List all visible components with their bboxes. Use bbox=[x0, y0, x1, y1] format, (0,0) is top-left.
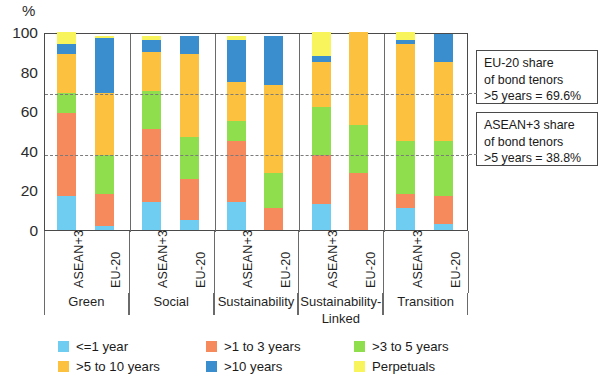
x-axis-region-label: ASEAN+3 bbox=[241, 230, 255, 288]
bar-segment bbox=[57, 32, 76, 44]
bar-segment bbox=[434, 141, 453, 196]
bar-segment bbox=[95, 38, 114, 93]
reference-line-connector bbox=[469, 154, 477, 155]
group-separator bbox=[384, 34, 385, 232]
group-separator bbox=[215, 34, 216, 232]
x-axis-divider bbox=[468, 231, 469, 293]
x-axis-region-label: ASEAN+3 bbox=[326, 230, 340, 288]
bar-segment bbox=[312, 56, 331, 62]
bar-segment bbox=[264, 85, 283, 172]
bar-segment bbox=[227, 40, 246, 82]
bar-segment bbox=[349, 32, 368, 125]
bar-segment bbox=[396, 32, 415, 40]
legend-item[interactable]: >5 to 10 years bbox=[58, 359, 160, 374]
bar-segment bbox=[180, 54, 199, 137]
bar-segment bbox=[227, 121, 246, 141]
bar-segment bbox=[95, 155, 114, 195]
bar-segment bbox=[180, 137, 199, 179]
legend-label: >10 years bbox=[224, 359, 282, 374]
bar-segment bbox=[142, 91, 161, 129]
group-separator bbox=[130, 34, 131, 232]
x-axis-region-label: EU-20 bbox=[449, 252, 463, 288]
y-axis-tick-label: 20 bbox=[0, 182, 38, 200]
bar-segment bbox=[396, 40, 415, 44]
bar-segment bbox=[142, 129, 161, 202]
bar-segment bbox=[264, 173, 283, 209]
x-axis-divider bbox=[44, 231, 45, 293]
bar-segment bbox=[312, 62, 331, 108]
bar-segment bbox=[227, 202, 246, 230]
bar-segment bbox=[95, 194, 114, 226]
y-axis-tick-label: 100 bbox=[0, 24, 38, 42]
bar-segment bbox=[434, 34, 453, 62]
legend-item[interactable]: >3 to 5 years bbox=[354, 339, 449, 354]
bar-segment bbox=[142, 40, 161, 52]
bar-segment bbox=[180, 179, 199, 221]
group-label: Sustainability bbox=[214, 294, 299, 309]
chart-figure: % 020406080100 ASEAN+3EU-20ASEAN+3EU-20A… bbox=[0, 0, 601, 380]
x-axis-region-label: EU-20 bbox=[364, 252, 378, 288]
legend-swatch-icon bbox=[58, 361, 69, 372]
legend-swatch-icon bbox=[206, 341, 217, 352]
legend-swatch-icon bbox=[354, 361, 365, 372]
y-axis-tick-label: 40 bbox=[0, 143, 38, 161]
bar-segment bbox=[227, 36, 246, 40]
bar-segment bbox=[312, 32, 331, 56]
bar-segment bbox=[142, 36, 161, 40]
legend-item[interactable]: <=1 year bbox=[58, 339, 128, 354]
group-label: Social bbox=[129, 294, 214, 309]
y-axis-unit-label: % bbox=[22, 2, 35, 19]
bar-segment bbox=[434, 196, 453, 224]
group-label: Sustainability- bbox=[298, 294, 383, 309]
bar-segment bbox=[434, 62, 453, 141]
x-axis: ASEAN+3EU-20ASEAN+3EU-20ASEAN+3EU-20ASEA… bbox=[0, 231, 601, 331]
x-axis-region-label: EU-20 bbox=[279, 252, 293, 288]
x-axis-region-label: EU-20 bbox=[194, 252, 208, 288]
bar-segment bbox=[349, 173, 368, 230]
plot-area bbox=[44, 33, 468, 231]
bar-segment bbox=[396, 44, 415, 141]
legend-item[interactable]: >10 years bbox=[206, 359, 282, 374]
bar-segment bbox=[312, 155, 331, 205]
bar-segment bbox=[57, 54, 76, 94]
bar-segment bbox=[57, 196, 76, 230]
bar-segment bbox=[95, 226, 114, 230]
group-label: Transition bbox=[383, 294, 468, 309]
legend-label: Perpetuals bbox=[372, 359, 435, 374]
annotation-eu20-line2: of bond tenors bbox=[484, 72, 591, 89]
annotation-eu20-share: EU-20 share of bond tenors >5 years = 69… bbox=[476, 50, 598, 104]
bar-segment bbox=[57, 93, 76, 113]
reference-line-connector bbox=[469, 93, 477, 94]
bar-segment bbox=[434, 224, 453, 230]
bar-segment bbox=[95, 36, 114, 38]
bar-segment bbox=[396, 194, 415, 208]
annotation-asean3-line3: >5 years = 38.8% bbox=[484, 150, 591, 167]
group-label: Green bbox=[44, 294, 129, 309]
legend-label: >1 to 3 years bbox=[224, 339, 301, 354]
bar-segment bbox=[227, 141, 246, 202]
annotation-asean3-line1: ASEAN+3 share bbox=[484, 117, 591, 134]
bar-segment bbox=[396, 141, 415, 194]
reference-line bbox=[45, 155, 469, 156]
legend-item[interactable]: Perpetuals bbox=[354, 359, 435, 374]
bar-segment bbox=[264, 36, 283, 86]
legend-label: <=1 year bbox=[76, 339, 128, 354]
annotation-asean3-line2: of bond tenors bbox=[484, 134, 591, 151]
chart-legend: <=1 year>1 to 3 years>3 to 5 years>5 to … bbox=[58, 339, 478, 377]
legend-item[interactable]: >1 to 3 years bbox=[206, 339, 301, 354]
x-axis-divider bbox=[298, 231, 299, 293]
legend-swatch-icon bbox=[58, 341, 69, 352]
legend-swatch-icon bbox=[354, 341, 365, 352]
x-axis-divider bbox=[383, 231, 384, 293]
bar-segment bbox=[312, 204, 331, 230]
bar-segment bbox=[57, 44, 76, 54]
bar-segment bbox=[264, 208, 283, 230]
x-axis-divider bbox=[129, 231, 130, 293]
bar-segment bbox=[142, 202, 161, 230]
x-axis-region-label: ASEAN+3 bbox=[72, 230, 86, 288]
legend-label: >5 to 10 years bbox=[76, 359, 160, 374]
annotation-asean3-share: ASEAN+3 share of bond tenors >5 years = … bbox=[476, 112, 598, 166]
bar-segment bbox=[180, 36, 199, 54]
annotation-eu20-line3: >5 years = 69.6% bbox=[484, 88, 591, 105]
x-axis-region-label: ASEAN+3 bbox=[156, 230, 170, 288]
